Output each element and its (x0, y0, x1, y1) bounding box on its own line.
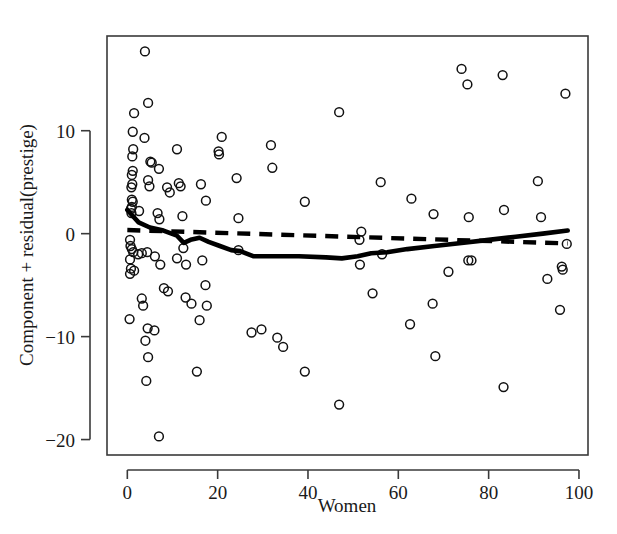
data-point (429, 210, 438, 219)
data-point (431, 352, 440, 361)
x-tick-label: 0 (123, 482, 133, 503)
data-point (165, 188, 174, 197)
data-point (195, 316, 204, 325)
data-point (197, 180, 206, 189)
data-point (150, 252, 159, 261)
data-point (498, 71, 507, 80)
data-point (457, 65, 466, 74)
data-point (155, 164, 164, 173)
data-point (153, 209, 162, 218)
data-point (247, 328, 256, 337)
x-axis-title: Women (318, 495, 377, 516)
fitted-curves (127, 210, 567, 258)
y-tick-label: −10 (45, 327, 75, 348)
data-point (537, 213, 546, 222)
data-point (406, 320, 415, 329)
data-point (178, 212, 187, 221)
data-point (140, 134, 149, 143)
data-point (335, 108, 344, 117)
data-point (356, 260, 365, 269)
data-point (444, 267, 453, 276)
data-point (273, 333, 282, 342)
data-point (173, 254, 182, 263)
data-point (300, 197, 309, 206)
data-point (407, 194, 416, 203)
data-point (257, 325, 266, 334)
x-tick-label: 40 (298, 482, 317, 503)
data-point (357, 227, 366, 236)
data-point (376, 178, 385, 187)
data-point (335, 400, 344, 409)
y-tick-label: 10 (56, 121, 75, 142)
data-point (142, 376, 151, 385)
y-tick-label: 0 (66, 224, 76, 245)
data-point (202, 301, 211, 310)
data-point (141, 336, 150, 345)
data-point (561, 89, 570, 98)
data-point (156, 260, 165, 269)
data-point (126, 255, 135, 264)
data-point (173, 145, 182, 154)
x-tick-label: 20 (208, 482, 227, 503)
data-point (232, 174, 241, 183)
data-point (202, 196, 211, 205)
data-point (499, 383, 508, 392)
y-tick-label: −20 (45, 430, 75, 451)
scatter-points (125, 47, 571, 441)
data-point (500, 206, 509, 215)
chart-canvas: 020406080100100−10−20 Women Component + … (0, 0, 617, 534)
data-point (182, 260, 191, 269)
data-point (562, 240, 571, 249)
data-point (463, 80, 472, 89)
x-tick-label: 60 (389, 482, 408, 503)
data-point (163, 183, 172, 192)
data-point (155, 215, 164, 224)
component-residual-plot: 020406080100100−10−20 Women Component + … (0, 0, 617, 534)
data-point (533, 177, 542, 186)
data-point (368, 289, 377, 298)
data-point (268, 163, 277, 172)
data-point (279, 343, 288, 352)
x-tick-label: 100 (565, 482, 594, 503)
data-point (556, 305, 565, 314)
data-point (267, 141, 276, 150)
data-point (145, 182, 154, 191)
data-point (300, 367, 309, 376)
data-point (198, 256, 207, 265)
data-point (128, 127, 137, 136)
data-point (234, 214, 243, 223)
y-axis-title: Component + residual(prestige) (16, 124, 38, 366)
data-point (428, 299, 437, 308)
data-point (464, 213, 473, 222)
data-point (125, 315, 134, 324)
data-point (155, 432, 164, 441)
data-point (217, 132, 226, 141)
data-point (144, 176, 153, 185)
data-point (144, 99, 153, 108)
axes: 020406080100100−10−20 (45, 121, 593, 503)
data-point (144, 353, 153, 362)
x-tick-label: 80 (479, 482, 498, 503)
data-point (176, 182, 185, 191)
data-point (141, 47, 150, 56)
data-point (192, 367, 201, 376)
data-point (201, 281, 210, 290)
data-point (187, 299, 196, 308)
data-point (130, 109, 139, 118)
data-point (543, 275, 552, 284)
